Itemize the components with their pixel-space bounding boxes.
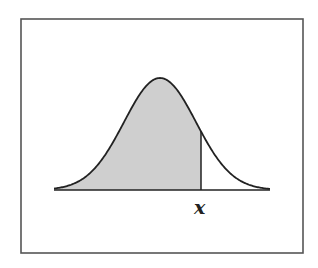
shaded-area [54, 78, 201, 190]
normal-distribution-figure: x [0, 0, 318, 268]
x-label: x [193, 196, 206, 218]
